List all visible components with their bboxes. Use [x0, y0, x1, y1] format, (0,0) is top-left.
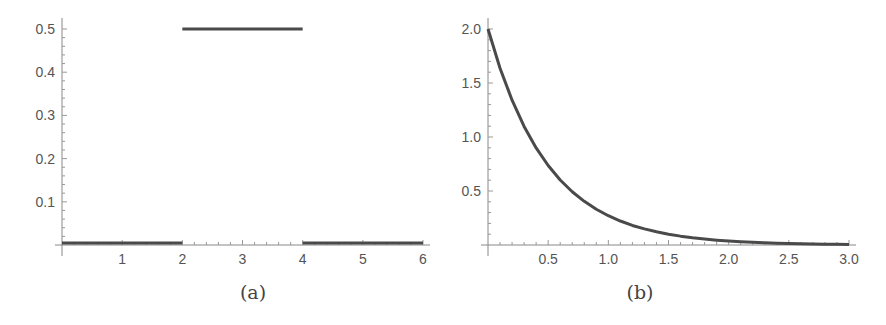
y-tick-label: 0.5 — [462, 183, 482, 199]
x-tick-label: 1 — [118, 251, 126, 267]
y-tick-label: 1.0 — [462, 129, 482, 145]
y-tick-label: 0.5 — [36, 21, 56, 37]
y-tick-label: 0.2 — [36, 151, 56, 167]
x-tick-label: 4 — [299, 251, 307, 267]
x-tick-label: 5 — [359, 251, 367, 267]
x-tick-label: 2.5 — [779, 251, 799, 267]
panel-b: 0.51.01.52.02.53.00.51.01.52.0 — [462, 18, 859, 267]
panel-a: 1234560.10.20.30.40.5 — [36, 18, 430, 267]
series-line — [488, 29, 849, 244]
figure: 1234560.10.20.30.40.5 0.51.01.52.02.53.0… — [0, 0, 886, 325]
x-tick-label: 6 — [419, 251, 427, 267]
x-tick-label: 1.0 — [599, 251, 619, 267]
y-tick-label: 1.5 — [462, 75, 482, 91]
y-tick-label: 0.4 — [36, 64, 56, 80]
y-tick-label: 0.3 — [36, 107, 56, 123]
x-tick-label: 3 — [239, 251, 247, 267]
y-tick-label: 2.0 — [462, 21, 482, 37]
x-tick-label: 3.0 — [839, 251, 859, 267]
x-tick-label: 2.0 — [719, 251, 739, 267]
x-tick-label: 1.5 — [659, 251, 679, 267]
caption-a: (a) — [240, 281, 266, 303]
x-tick-label: 0.5 — [538, 251, 558, 267]
caption-b: (b) — [627, 281, 654, 303]
y-tick-label: 0.1 — [36, 194, 56, 210]
x-tick-label: 2 — [178, 251, 186, 267]
